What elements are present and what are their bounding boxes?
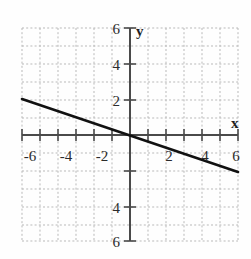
y-tick-label-neg4: 4: [113, 200, 121, 216]
x-tick-label-neg4: -4: [60, 148, 73, 164]
y-tick-label-pos4: 4: [113, 57, 121, 73]
x-tick-label-pos6: 6: [232, 148, 240, 164]
x-tick-label-neg2: -2: [96, 148, 109, 164]
y-tick-label-pos6: 6: [113, 21, 121, 37]
x-axis-label: x: [231, 115, 239, 131]
x-tick-label-pos2: 2: [165, 148, 173, 164]
y-axis-label: y: [136, 23, 144, 39]
x-tick-label-neg6: -6: [24, 148, 37, 164]
y-tick-label-neg6: 6: [113, 234, 121, 250]
coordinate-plane-figure: -6 -4 -2 2 4 6 6 4 2 4 6 y x: [0, 0, 251, 259]
x-tick-label-pos4: 4: [201, 148, 209, 164]
y-tick-label-pos2: 2: [113, 93, 121, 109]
plot-background: [0, 0, 251, 259]
graph-canvas: -6 -4 -2 2 4 6 6 4 2 4 6 y x: [0, 0, 251, 259]
